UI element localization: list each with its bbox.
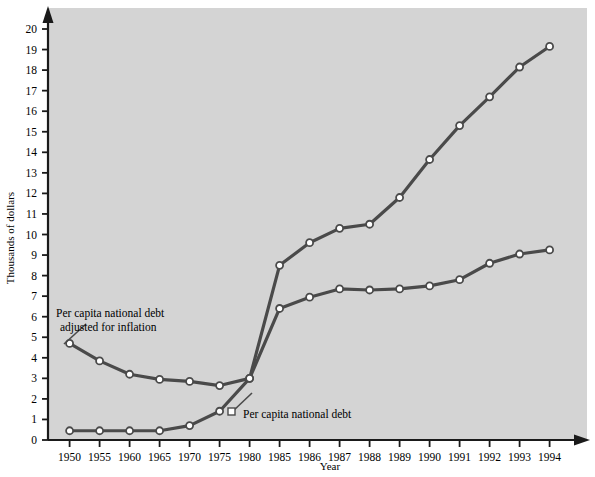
y-tick-label: 0 bbox=[31, 434, 37, 446]
x-tick-label: 1991 bbox=[448, 451, 471, 463]
y-tick-label: 6 bbox=[31, 311, 37, 323]
y-tick-label: 20 bbox=[26, 23, 38, 35]
data-point-marker bbox=[186, 378, 193, 385]
data-point-marker bbox=[366, 221, 373, 228]
x-tick-label: 1980 bbox=[238, 451, 261, 463]
annotation-adjusted-line2: adjusted for inflation bbox=[60, 321, 157, 334]
data-point-marker bbox=[426, 156, 433, 163]
y-tick-label: 3 bbox=[31, 372, 37, 384]
x-tick-label: 1986 bbox=[298, 451, 321, 463]
chart-page: 01234567891011121314151617181920 1950195… bbox=[0, 0, 595, 477]
data-point-marker bbox=[216, 382, 223, 389]
data-point-marker bbox=[156, 427, 163, 434]
data-point-marker bbox=[456, 122, 463, 129]
annotation-nominal-line1: Per capita national debt bbox=[243, 408, 352, 421]
data-point-marker bbox=[366, 286, 373, 293]
data-point-marker bbox=[336, 225, 343, 232]
data-point-marker bbox=[546, 246, 553, 253]
y-tick-label: 5 bbox=[31, 331, 37, 343]
data-point-marker bbox=[306, 294, 313, 301]
y-tick-label: 14 bbox=[26, 146, 38, 158]
data-point-marker bbox=[276, 262, 283, 269]
y-tick-label: 16 bbox=[26, 105, 38, 117]
x-tick-label: 1955 bbox=[88, 451, 111, 463]
x-tick-label: 1988 bbox=[358, 451, 381, 463]
data-point-marker bbox=[126, 427, 133, 434]
y-axis-title: Thousands of dollars bbox=[4, 192, 16, 284]
data-point-marker bbox=[426, 282, 433, 289]
x-tick-label: 1970 bbox=[178, 451, 201, 463]
x-tick-label: 1985 bbox=[268, 451, 291, 463]
data-point-marker bbox=[306, 239, 313, 246]
y-tick-label: 17 bbox=[26, 85, 38, 97]
data-point-marker bbox=[126, 371, 133, 378]
x-axis-title: Year bbox=[320, 460, 341, 472]
y-tick-label: 18 bbox=[26, 64, 38, 76]
data-point-marker bbox=[186, 422, 193, 429]
y-tick-label: 15 bbox=[26, 126, 38, 138]
x-tick-label: 1975 bbox=[208, 451, 231, 463]
data-point-marker bbox=[486, 260, 493, 267]
y-tick-label: 7 bbox=[31, 290, 37, 302]
x-axis-ticks: 1950195519601965197019751980198519861987… bbox=[58, 439, 561, 463]
data-point-marker bbox=[456, 276, 463, 283]
data-point-marker bbox=[546, 43, 553, 50]
y-tick-label: 10 bbox=[26, 229, 38, 241]
data-point-marker bbox=[66, 427, 73, 434]
x-axis-arrowhead bbox=[574, 435, 590, 446]
x-tick-label: 1965 bbox=[148, 451, 171, 463]
x-tick-label: 1960 bbox=[118, 451, 141, 463]
y-tick-label: 12 bbox=[26, 187, 38, 199]
y-tick-label: 13 bbox=[26, 167, 38, 179]
y-tick-label: 8 bbox=[31, 270, 37, 282]
line-chart: 01234567891011121314151617181920 1950195… bbox=[0, 0, 595, 477]
x-tick-label: 1950 bbox=[58, 451, 81, 463]
annotation-adjusted-line1: Per capita national debt bbox=[56, 307, 165, 320]
y-tick-label: 19 bbox=[26, 44, 38, 56]
x-tick-label: 1994 bbox=[538, 451, 561, 463]
x-tick-label: 1993 bbox=[508, 451, 531, 463]
y-tick-label: 1 bbox=[31, 413, 37, 425]
data-point-marker bbox=[276, 305, 283, 312]
y-axis-ticks: 01234567891011121314151617181920 bbox=[26, 23, 50, 446]
data-point-marker bbox=[396, 285, 403, 292]
x-tick-label: 1989 bbox=[388, 451, 411, 463]
data-point-marker bbox=[156, 376, 163, 383]
data-point-marker bbox=[216, 408, 223, 415]
y-tick-label: 11 bbox=[26, 208, 37, 220]
data-point-marker bbox=[96, 427, 103, 434]
data-point-marker bbox=[396, 194, 403, 201]
annotation-nominal-marker bbox=[228, 408, 235, 415]
y-tick-label: 9 bbox=[31, 249, 37, 261]
data-point-marker bbox=[516, 251, 523, 258]
data-point-marker bbox=[96, 357, 103, 364]
data-point-marker bbox=[486, 93, 493, 100]
y-axis-arrowhead bbox=[43, 6, 54, 23]
data-point-marker bbox=[516, 64, 523, 71]
data-point-marker bbox=[336, 285, 343, 292]
data-point-marker bbox=[246, 375, 253, 382]
y-tick-label: 2 bbox=[31, 393, 37, 405]
y-tick-label: 4 bbox=[31, 352, 37, 364]
x-tick-label: 1990 bbox=[418, 451, 441, 463]
x-tick-label: 1992 bbox=[478, 451, 501, 463]
